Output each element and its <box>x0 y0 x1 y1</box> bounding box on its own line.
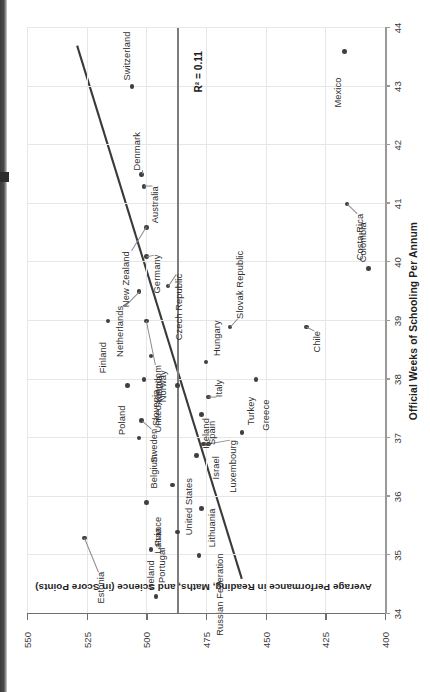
x-axis-line <box>385 28 387 614</box>
gridline-horizontal <box>87 28 88 614</box>
x-axis-tick-label: 41 <box>392 198 403 209</box>
x-axis-tick-label: 36 <box>392 491 403 502</box>
data-point-label: France <box>153 517 164 547</box>
x-axis-tick <box>385 378 390 379</box>
data-point-label: Poland <box>117 405 128 435</box>
data-point <box>366 266 371 271</box>
gridline-horizontal <box>27 28 28 614</box>
data-point-label: Hungary <box>212 320 223 356</box>
data-point-label: Finland <box>98 342 109 373</box>
data-point <box>130 84 135 89</box>
data-point <box>199 506 204 511</box>
x-axis-tick-label: 38 <box>392 374 403 385</box>
data-point-label: Greece <box>261 400 272 431</box>
data-point-label: Chile <box>312 331 323 353</box>
data-point <box>144 500 149 505</box>
data-point-label: Czech Republic <box>174 274 184 341</box>
y-axis-tick <box>87 614 88 620</box>
y-axis-tick <box>385 614 386 620</box>
gridline-horizontal <box>266 28 267 614</box>
data-point <box>197 553 202 558</box>
x-axis-tick-label: 42 <box>392 140 403 151</box>
x-axis-tick-label: 37 <box>392 433 403 444</box>
plot-area: EstoniaIrelandPortugalLatviaLithuaniaRus… <box>27 28 385 614</box>
rotated-chart-canvas: EstoniaIrelandPortugalLatviaLithuaniaRus… <box>0 0 430 692</box>
y-axis-tick-label: 450 <box>260 632 271 648</box>
x-axis-tick <box>385 144 390 145</box>
data-point <box>142 377 147 382</box>
y-axis-tick-label: 475 <box>201 632 212 648</box>
data-point-label: Mexico <box>333 77 344 107</box>
y-axis-tick-label: 425 <box>320 632 331 648</box>
data-point-label: Australia <box>150 186 161 223</box>
x-axis-tick <box>385 554 390 555</box>
label-leader-line <box>142 171 143 175</box>
data-point <box>175 383 180 388</box>
data-point-label: United States <box>184 478 195 535</box>
x-axis-tick-label: 39 <box>392 316 403 327</box>
x-axis-tick <box>385 261 390 262</box>
y-axis-tick <box>325 614 326 620</box>
y-axis-tick <box>266 614 267 620</box>
y-axis-tick <box>146 614 147 620</box>
x-axis-tick <box>385 202 390 203</box>
data-point <box>199 412 204 417</box>
x-axis-tick <box>385 495 390 496</box>
data-point-label: Turkey <box>246 397 257 426</box>
x-axis-tick-label: 34 <box>392 609 403 620</box>
data-point <box>154 594 159 599</box>
x-axis-tick-label: 44 <box>392 23 403 34</box>
data-point-label: Denmark <box>132 132 143 170</box>
data-point-label: Netherlands <box>115 306 126 357</box>
x-axis-tick <box>385 437 390 438</box>
data-point-label: Costa Rica <box>355 214 366 260</box>
x-axis-tick <box>385 85 390 86</box>
scatter-chart-figure: EstoniaIrelandPortugalLatviaLithuaniaRus… <box>0 0 430 692</box>
x-axis-tick-label: 35 <box>392 550 403 561</box>
y-axis-tick <box>27 614 28 620</box>
data-point-label: Lithuania <box>207 509 218 548</box>
data-point-label: Slovak Republic <box>235 251 245 319</box>
y-axis-title: Average Performance in Reading, Maths, a… <box>25 582 383 593</box>
x-axis-title: Official Weeks of Schooling Per Annum <box>408 28 419 614</box>
x-axis-tick <box>385 27 390 28</box>
data-point-label: Germany <box>152 255 163 294</box>
data-point <box>194 453 199 458</box>
x-axis-tick-label: 43 <box>392 81 403 92</box>
y-axis-tick-label: 550 <box>22 632 33 648</box>
data-point-label: United Kingdom <box>153 365 163 433</box>
data-point <box>125 383 130 388</box>
data-point-label: Switzerland <box>122 31 133 80</box>
y-axis-tick <box>206 614 207 620</box>
r2-annotation: R² = 0.11 <box>193 51 204 93</box>
data-point <box>240 430 245 435</box>
data-point-label: Sweden <box>149 429 160 463</box>
data-point <box>342 49 347 54</box>
x-axis-tick <box>385 320 390 321</box>
y-axis-tick-label: 400 <box>380 632 391 648</box>
y-axis-tick-label: 500 <box>141 632 152 648</box>
data-point-label: Russian Federation <box>215 553 225 635</box>
data-point-label: Israel <box>211 456 222 479</box>
gridline-horizontal <box>325 28 326 614</box>
x-axis-tick-label: 40 <box>392 257 403 268</box>
data-point <box>175 530 180 535</box>
data-point-label: Spain <box>207 421 218 445</box>
data-point-label: New Zealand <box>121 251 132 307</box>
data-point-label: Luxembourg <box>228 440 239 493</box>
data-point-label: Italy <box>214 380 225 398</box>
y-axis-tick-label: 525 <box>81 632 92 648</box>
